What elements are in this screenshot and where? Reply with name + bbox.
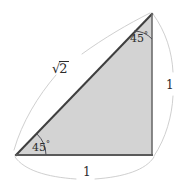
degree-symbol-apex: ° — [144, 30, 148, 39]
side-label-base: 1 — [83, 166, 91, 178]
square-root-expression: √2 — [52, 61, 69, 75]
right-leg-measure-arc-upper — [153, 14, 173, 72]
radicand: 2 — [59, 61, 68, 75]
angle-apex-value: 45 — [130, 32, 144, 45]
right-leg-measure-arc-lower — [154, 96, 173, 156]
base-measure-arc-left — [15, 157, 76, 179]
angle-base-value: 45 — [32, 141, 46, 154]
geometry-figure: 45° 45° √2 1 1 — [0, 0, 179, 185]
degree-symbol-base: ° — [46, 139, 50, 148]
side-label-hypotenuse: √2 — [52, 61, 69, 75]
angle-label-apex: 45° — [130, 31, 148, 44]
triangle-diagram-canvas — [0, 0, 179, 185]
angle-label-base-left: 45° — [32, 140, 50, 153]
side-label-right-leg: 1 — [166, 79, 174, 91]
base-measure-arc-right — [95, 157, 154, 179]
